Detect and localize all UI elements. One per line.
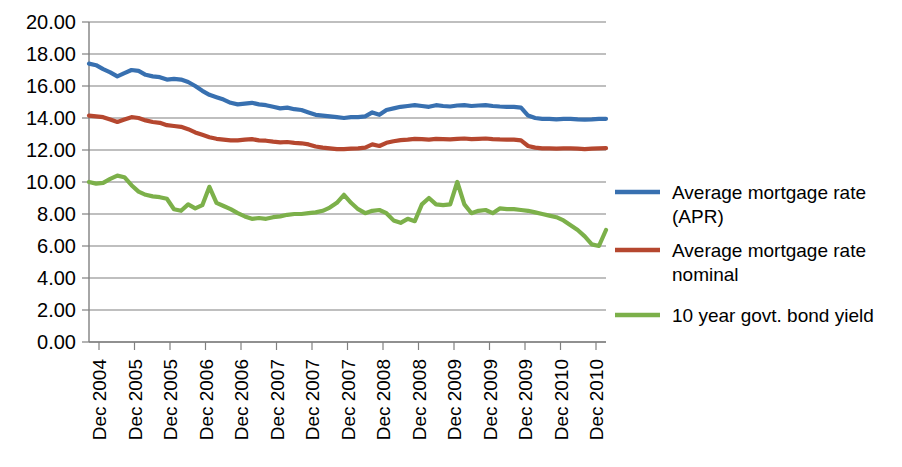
line-chart: 0.002.004.006.008.0010.0012.0014.0016.00… [0,0,902,467]
series-line-1 [89,64,606,120]
y-axis-labels-group: 0.002.004.006.008.0010.0012.0014.0016.00… [26,11,76,353]
series-line-3 [89,176,606,246]
y-axis-tick-label: 8.00 [37,203,76,225]
x-axis-labels-group: Dec 2004Dec 2005Dec 2005Dec 2006Dec 2006… [89,359,607,441]
legend-label-1: Average mortgage rate [672,182,866,203]
x-axis-tick-label: Dec 2009 [515,359,536,440]
legend-group: Average mortgage rate(APR)Average mortga… [615,182,874,326]
y-axis-tick-label: 16.00 [26,75,76,97]
y-axis-tick-label: 12.00 [26,139,76,161]
y-axis-tick-label: 0.00 [37,331,76,353]
x-axis-tick-label: Dec 2008 [409,359,430,440]
x-axis-tick-label: Dec 2006 [231,359,252,440]
x-axis-ticks-group [89,342,606,350]
x-axis-tick-label: Dec 2006 [196,359,217,440]
y-axis-tick-label: 18.00 [26,43,76,65]
x-axis-tick-label: Dec 2007 [267,359,288,440]
y-axis-tick-label: 2.00 [37,299,76,321]
y-axis-tick-label: 4.00 [37,267,76,289]
legend-label-2-line2: nominal [672,264,739,285]
x-axis-tick-label: Dec 2004 [89,359,110,441]
x-axis-tick-label: Dec 2005 [125,359,146,440]
x-axis-tick-label: Dec 2009 [480,359,501,440]
y-axis-tick-label: 20.00 [26,11,76,33]
legend-label-1-line2: (APR) [672,206,724,227]
x-axis-tick-label: Dec 2010 [586,359,607,440]
y-axis-tick-label: 10.00 [26,171,76,193]
legend-label-3: 10 year govt. bond yield [672,305,874,326]
gridlines-group [89,22,606,342]
x-axis-tick-label: Dec 2007 [338,359,359,440]
x-axis-tick-label: Dec 2005 [160,359,181,440]
x-axis-tick-label: Dec 2007 [302,359,323,440]
chart-container: 0.002.004.006.008.0010.0012.0014.0016.00… [0,0,902,467]
x-axis-tick-label: Dec 2010 [551,359,572,440]
series-group [89,64,606,246]
x-axis-tick-label: Dec 2009 [444,359,465,440]
series-line-2 [89,116,606,150]
legend-label-2: Average mortgage rate [672,240,866,261]
y-axis-tick-label: 14.00 [26,107,76,129]
y-axis-tick-label: 6.00 [37,235,76,257]
x-axis-tick-label: Dec 2008 [373,359,394,440]
